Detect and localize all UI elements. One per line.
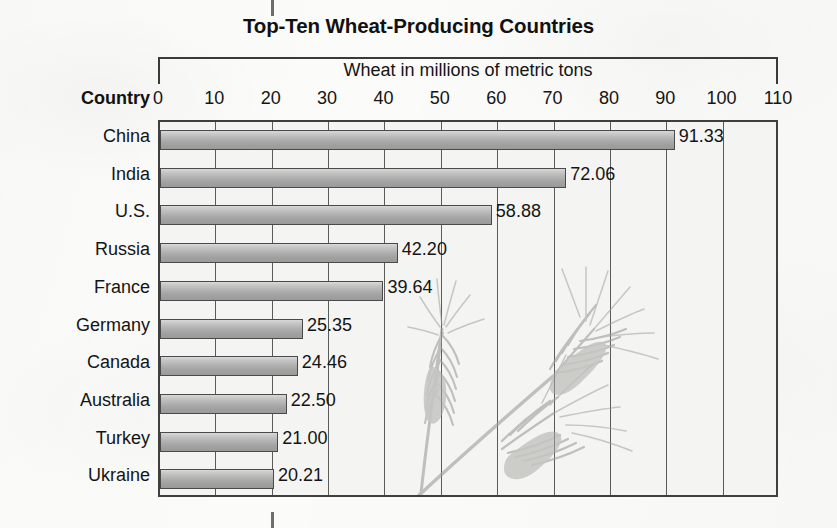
bar-value-label: 20.21 xyxy=(278,465,323,486)
plot-area xyxy=(158,120,778,497)
category-label: Germany xyxy=(0,315,150,336)
bar-value-label: 25.35 xyxy=(307,315,352,336)
category-label: Australia xyxy=(0,390,150,411)
x-tick-label: 0 xyxy=(133,88,183,109)
bar xyxy=(160,432,278,452)
bar xyxy=(160,243,398,263)
bar xyxy=(160,130,675,150)
bar-row xyxy=(160,461,776,497)
bar-value-label: 21.00 xyxy=(282,428,327,449)
x-tick-label: 80 xyxy=(584,88,634,109)
x-tick-label-row: 0102030405060708090100110 xyxy=(158,88,778,112)
bar-value-label: 39.64 xyxy=(387,277,432,298)
x-tick-label: 70 xyxy=(528,88,578,109)
category-label: India xyxy=(0,164,150,185)
bar xyxy=(160,281,383,301)
bar xyxy=(160,168,566,188)
x-tick-label: 10 xyxy=(189,88,239,109)
bar xyxy=(160,319,303,339)
category-label: Canada xyxy=(0,352,150,373)
category-label: Turkey xyxy=(0,428,150,449)
chart-page: Top-Ten Wheat-Producing Countries Wheat … xyxy=(0,0,837,528)
bar-row xyxy=(160,197,776,234)
bar-value-label: 42.20 xyxy=(402,239,447,260)
bar-row xyxy=(160,386,776,423)
x-tick-label: 90 xyxy=(640,88,690,109)
crop-mark-bottom-icon xyxy=(271,512,274,528)
bar-value-label: 24.46 xyxy=(302,352,347,373)
bar-group xyxy=(160,122,776,495)
x-tick-label: 20 xyxy=(246,88,296,109)
category-label: Ukraine xyxy=(0,465,150,486)
category-label: China xyxy=(0,126,150,147)
chart-title: Top-Ten Wheat-Producing Countries xyxy=(0,14,837,38)
bar-row xyxy=(160,348,776,385)
category-label: France xyxy=(0,277,150,298)
x-tick-label: 110 xyxy=(753,88,803,109)
bar-row xyxy=(160,235,776,272)
x-tick-label: 40 xyxy=(358,88,408,109)
bar xyxy=(160,394,287,414)
bar-row xyxy=(160,273,776,310)
bar-value-label: 91.33 xyxy=(679,126,724,147)
y-axis-label: Country xyxy=(0,88,150,109)
bar-row xyxy=(160,160,776,197)
bar xyxy=(160,469,274,489)
category-label: U.S. xyxy=(0,201,150,222)
bar-row xyxy=(160,311,776,348)
bar-value-label: 22.50 xyxy=(291,390,336,411)
bar-value-label: 58.88 xyxy=(496,201,541,222)
bar-value-label: 72.06 xyxy=(570,164,615,185)
x-tick-label: 60 xyxy=(471,88,521,109)
x-tick-label: 100 xyxy=(697,88,747,109)
bar xyxy=(160,205,492,225)
x-axis-label: Wheat in millions of metric tons xyxy=(158,60,778,81)
bar-row xyxy=(160,424,776,461)
x-tick-label: 50 xyxy=(415,88,465,109)
bar xyxy=(160,356,298,376)
category-label: Russia xyxy=(0,239,150,260)
x-tick-label: 30 xyxy=(302,88,352,109)
